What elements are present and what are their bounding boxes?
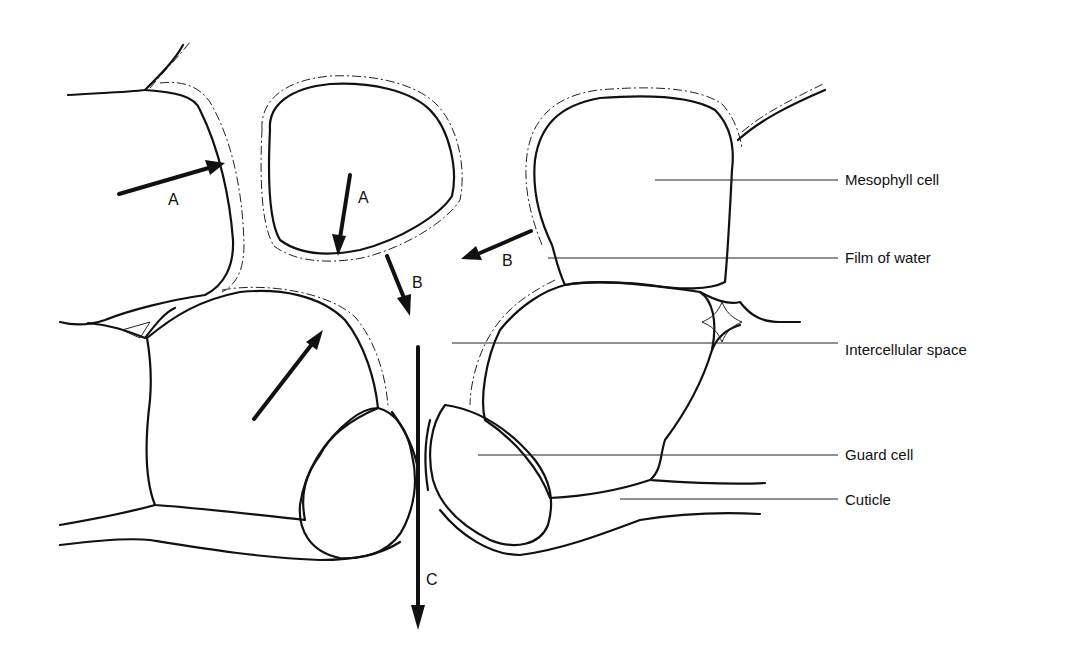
guard-cell-right: [426, 405, 552, 545]
arrow-a-left: [119, 160, 225, 194]
arrow-c-stoma: [411, 347, 425, 630]
air-pocket-left: [88, 308, 175, 338]
label-arrow-b-center: B: [412, 274, 423, 291]
arrow-lower-left: [254, 330, 323, 419]
guard-cell-left: [300, 408, 418, 558]
mesophyll-cell-lower-right: [470, 280, 714, 498]
leaf-cross-section-diagram: A A B B C Mesophyll cell Film of water I…: [0, 0, 1085, 664]
label-guard-cell: Guard cell: [845, 446, 913, 463]
label-arrow-a-center: A: [358, 189, 369, 206]
label-cuticle: Cuticle: [845, 491, 891, 508]
arrow-a-center: [332, 175, 350, 256]
label-film-of-water: Film of water: [845, 249, 931, 266]
arrow-b-right: [461, 231, 531, 260]
arrow-b-center: [387, 256, 411, 316]
label-arrow-a-left: A: [168, 191, 179, 208]
label-intercellular-space: Intercellular space: [845, 341, 967, 358]
label-mesophyll-cell: Mesophyll cell: [845, 171, 939, 188]
label-arrow-b-right: B: [502, 252, 513, 269]
cuticle: [60, 480, 765, 560]
mesophyll-cell-upper-center: [261, 76, 462, 261]
label-arrow-c: C: [426, 571, 438, 588]
